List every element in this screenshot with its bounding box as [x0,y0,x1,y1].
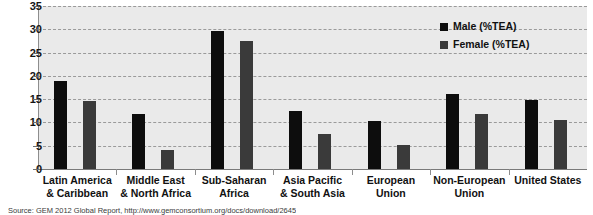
category-label-line: United States [509,174,587,187]
bar-chart: 05101520253035 Latin America& CaribbeanM… [0,0,593,215]
bar-female [397,145,410,169]
legend-label: Male (%TEA) [453,21,517,32]
category-label-line: Union [430,187,508,200]
bar-male [446,94,459,169]
chart-legend: Male (%TEA)Female (%TEA) [440,20,529,56]
bar-female [240,41,253,169]
bar-female [83,101,96,169]
legend-item[interactable]: Female (%TEA) [440,38,529,51]
category-label: Middle East& North Africa [116,174,194,200]
category-label-line: Non-European [430,174,508,187]
category-label: Asia Pacific& South Asia [273,174,351,200]
bar-group [38,6,116,169]
category-label: Non-EuropeanUnion [430,174,508,200]
bar-group [352,6,430,169]
legend-swatch-icon [440,41,448,49]
category-label-line: Sub-Saharan [195,174,273,187]
y-axis-tick-mark [33,169,38,170]
source-note: Source: GEM 2012 Global Report, http://w… [8,206,296,215]
bar-male [211,31,224,169]
category-label-line: Africa [195,187,273,200]
bar-group [273,6,351,169]
category-label-line: Union [352,187,430,200]
x-axis-line [38,169,587,170]
category-label: EuropeanUnion [352,174,430,200]
bar-group [116,6,194,169]
category-label-line: & North Africa [116,187,194,200]
category-label: Latin America& Caribbean [38,174,116,200]
legend-swatch-icon [440,23,448,31]
category-label: United States [509,174,587,187]
bar-female [554,120,567,169]
category-label-line: & Caribbean [38,187,116,200]
bar-male [368,121,381,169]
category-label-line: European [352,174,430,187]
bar-female [161,150,174,169]
bar-female [318,134,331,169]
bar-group [195,6,273,169]
bar-male [54,81,67,169]
legend-label: Female (%TEA) [453,39,529,50]
bar-male [132,114,145,169]
legend-item[interactable]: Male (%TEA) [440,20,529,33]
category-label-line: & South Asia [273,187,351,200]
category-label-line: Asia Pacific [273,174,351,187]
category-label-line: Latin America [38,174,116,187]
bar-male [525,100,538,169]
bar-female [475,114,488,169]
bar-male [289,111,302,169]
category-labels: Latin America& CaribbeanMiddle East& Nor… [38,174,587,206]
category-label-line: Middle East [116,174,194,187]
category-label: Sub-SaharanAfrica [195,174,273,200]
